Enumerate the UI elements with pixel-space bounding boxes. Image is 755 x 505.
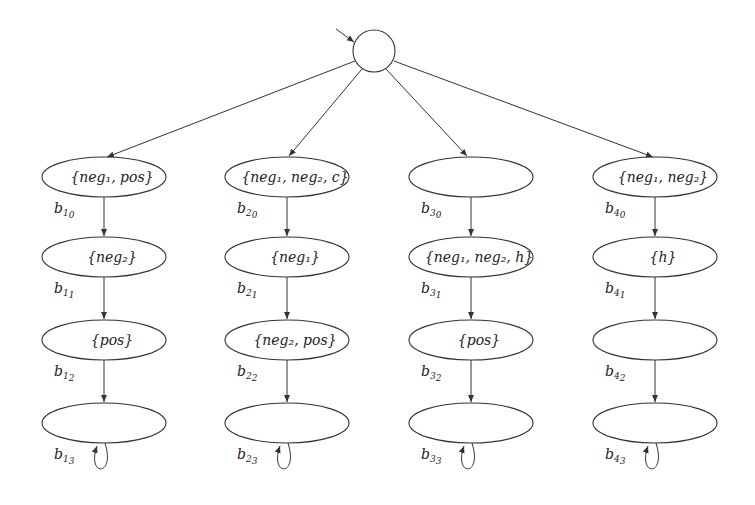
- self-loop-b1: [95, 443, 108, 469]
- state-name: b30: [421, 200, 442, 220]
- initial-arrow: [336, 29, 354, 42]
- state-ellipse: [593, 320, 717, 360]
- state-name: b32: [421, 363, 442, 383]
- state-label: {pos}: [91, 332, 133, 348]
- state-label: {neg₂}: [87, 249, 137, 265]
- state-b1-3: b13: [42, 403, 166, 466]
- automaton-diagram: {neg₁, pos}b10{neg₂}b11{pos}b12b13{neg₁,…: [0, 0, 755, 505]
- state-name: b20: [237, 200, 258, 220]
- self-loop-b2: [278, 443, 291, 469]
- state-ellipse: [225, 403, 349, 443]
- state-label: {pos}: [458, 332, 500, 348]
- initial-state: [353, 30, 395, 72]
- state-name: b42: [605, 363, 626, 383]
- state-name: b12: [54, 363, 75, 383]
- self-loop-b4: [646, 443, 659, 469]
- state-label: {neg₂, pos}: [253, 332, 336, 348]
- state-ellipse: [593, 403, 717, 443]
- self-loop-b3: [462, 443, 475, 469]
- state-label: {neg₁}: [270, 249, 320, 265]
- state-ellipse: [409, 403, 533, 443]
- state-name: b21: [237, 280, 257, 300]
- state-label: {neg₁, neg₂, h}: [425, 249, 533, 265]
- state-b3-3: b33: [409, 403, 533, 466]
- state-label: {neg₁, neg₂}: [618, 169, 708, 185]
- state-name: b23: [237, 446, 258, 466]
- state-b4-3: b43: [593, 403, 717, 466]
- state-label: {h}: [650, 249, 677, 265]
- state-name: b22: [237, 363, 258, 383]
- state-name: b11: [54, 280, 74, 300]
- state-label: {neg₁, pos}: [70, 169, 153, 185]
- state-name: b33: [421, 446, 442, 466]
- edge-init-b3: [386, 69, 467, 156]
- state-ellipse: [409, 157, 533, 197]
- state-name: b43: [605, 446, 626, 466]
- state-name: b41: [605, 280, 625, 300]
- edge-init-b4: [394, 61, 653, 157]
- edge-init-b1: [107, 61, 355, 157]
- state-name: b10: [54, 200, 75, 220]
- state-name: b13: [54, 446, 75, 466]
- state-ellipse: [42, 403, 166, 443]
- state-name: b31: [421, 280, 441, 300]
- state-b2-3: b23: [225, 403, 349, 466]
- state-name: b40: [605, 200, 626, 220]
- state-label: {neg₁, neg₂, c}: [241, 169, 348, 185]
